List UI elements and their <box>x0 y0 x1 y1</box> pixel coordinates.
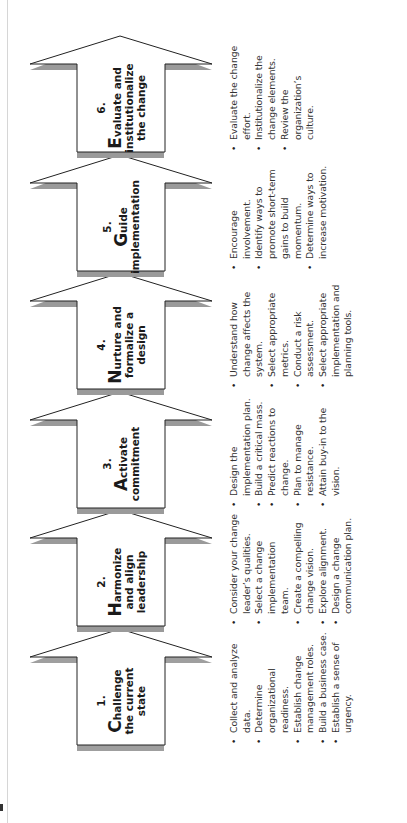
step-initial: E <box>105 137 125 149</box>
step-number: 6. <box>95 102 107 113</box>
action-item: Conduct a risk assessment. <box>292 276 317 388</box>
step-title-text: urture and formalize a design <box>111 306 147 378</box>
action-item: Establish a sense of urgency. <box>330 632 355 744</box>
step-arrow-3: 3. Activate commitment <box>0 375 240 515</box>
change-model-diagram: 1. Challenge the current state 2. Harmon… <box>0 0 407 823</box>
action-item: Establish change management roles. <box>292 632 317 744</box>
action-item: Build a critical mass. <box>253 395 266 507</box>
action-item: Understand how change affects the system… <box>228 276 266 388</box>
step-title: 4. Nurture and formalize a design <box>77 302 165 388</box>
action-item: Select a change implementation team. <box>253 513 291 625</box>
action-item: Explore alignment. <box>317 513 330 625</box>
action-item: Select appropriate metrics. <box>266 276 291 388</box>
step-title: 6. Evaluate and institutionalize the cha… <box>77 65 165 151</box>
step-number: 1. <box>95 695 107 706</box>
step-title-text: uide implementation <box>117 180 141 274</box>
step-title: 3. Activate commitment <box>77 421 165 507</box>
action-item: Predict reactions to change. <box>266 395 291 507</box>
action-item: Design the implementation plan. <box>228 395 253 507</box>
step-6-actions: Evaluate the change effort. Institutiona… <box>228 39 317 151</box>
step-initial: C <box>105 720 125 732</box>
step-initial: H <box>105 602 125 616</box>
action-item: Attain buy-in to the vision. <box>317 395 342 507</box>
step-initial: G <box>111 233 131 247</box>
action-item: Identify ways to promote short-term gain… <box>253 158 304 270</box>
step-2-actions: Consider your change leader’s qualities.… <box>228 513 355 625</box>
step-number: 5. <box>101 221 113 232</box>
step-number: 4. <box>95 339 107 350</box>
step-number: 3. <box>101 458 113 469</box>
action-item: Design a change communication plan. <box>330 513 355 625</box>
step-initial: N <box>105 369 125 383</box>
step-arrow-5: 5. Guide implementation <box>0 138 240 278</box>
action-item: Collect and analyze data. <box>228 632 253 744</box>
action-item: Review the organization’s culture. <box>279 39 317 151</box>
step-3-actions: Design the implementation plan. Build a … <box>228 395 342 507</box>
action-item: Plan to manage resistance. <box>292 395 317 507</box>
action-item: Determine ways to increase motivation. <box>304 158 329 270</box>
step-title: 1. Challenge the current state <box>77 658 165 744</box>
step-title: 2. Harmonize and align leadership <box>77 539 165 625</box>
step-title: 5. Guide implementation <box>77 184 165 270</box>
step-initial: A <box>111 478 131 491</box>
action-item: Encourage involvement. <box>228 158 253 270</box>
action-item: Build a business case. <box>317 632 330 744</box>
action-item: Determine organizational readiness. <box>253 632 291 744</box>
action-item: Institutionalize the change elements. <box>253 39 278 151</box>
action-item: Select appropriate implementation and pl… <box>317 276 355 388</box>
step-arrow-6: 6. Evaluate and institutionalize the cha… <box>0 19 240 159</box>
step-1-actions: Collect and analyze data. Determine orga… <box>228 632 355 744</box>
step-4-actions: Understand how change affects the system… <box>228 276 355 388</box>
action-item: Consider your change leader’s qualities. <box>228 513 253 625</box>
action-item: Evaluate the change effort. <box>228 39 253 151</box>
action-item: Create a compelling change vision. <box>292 513 317 625</box>
step-number: 2. <box>95 576 107 587</box>
step-arrow-1: 1. Challenge the current state <box>0 612 240 752</box>
step-5-actions: Encourage involvement. Identify ways to … <box>228 158 330 270</box>
